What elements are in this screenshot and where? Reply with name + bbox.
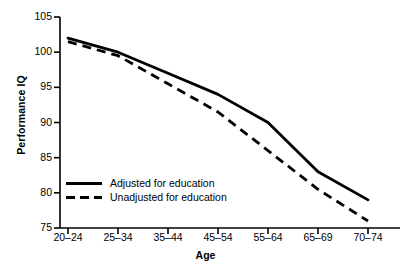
x-tick-label: 70–74 (338, 232, 398, 243)
legend-swatch-solid-icon (66, 177, 102, 189)
chart-legend: Adjusted for education Unadjusted for ed… (66, 176, 266, 204)
x-axis-tick-labels: 20–2425–3435–4445–5455–6465–6970–74 (0, 232, 411, 248)
legend-label-adjusted: Adjusted for education (102, 177, 215, 189)
x-axis-title: Age (0, 249, 411, 261)
legend-swatch-dashed-icon (66, 191, 102, 203)
legend-label-unadjusted: Unadjusted for education (102, 191, 227, 203)
legend-item-unadjusted: Unadjusted for education (66, 190, 266, 204)
legend-item-adjusted: Adjusted for education (66, 176, 266, 190)
y-axis-ticks (54, 17, 60, 228)
performance-iq-line-chart: Performance IQ 1051009590858075 20–2425–… (0, 0, 411, 272)
